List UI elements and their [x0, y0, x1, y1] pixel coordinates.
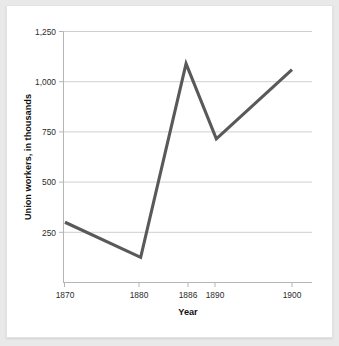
y-tick-label-750: 750 — [42, 127, 56, 137]
x-axis-title: Year — [178, 307, 198, 317]
x-tick-label-1870: 1870 — [56, 290, 75, 300]
data-series-line — [65, 64, 292, 258]
y-tick-label-250: 250 — [42, 228, 56, 238]
x-tick-label-1900: 1900 — [283, 290, 302, 300]
y-tick-label-1000: 1,000 — [35, 77, 56, 87]
x-tick-label-1886: 1886 — [179, 290, 198, 300]
x-tick-label-1890: 1890 — [206, 290, 225, 300]
line-chart: 1,250 1,000 750 500 250 1870 1880 1886 1… — [7, 6, 334, 339]
y-axis-title: Union workers, in thousands — [23, 94, 33, 220]
x-tick-label-1880: 1880 — [130, 290, 149, 300]
y-tick-label-500: 500 — [42, 177, 56, 187]
x-tick-marks — [65, 283, 293, 288]
y-tick-label-1250: 1,250 — [35, 27, 56, 37]
gridlines — [63, 32, 312, 233]
chart-card: 1,250 1,000 750 500 250 1870 1880 1886 1… — [6, 5, 333, 338]
y-tick-marks — [59, 32, 63, 233]
